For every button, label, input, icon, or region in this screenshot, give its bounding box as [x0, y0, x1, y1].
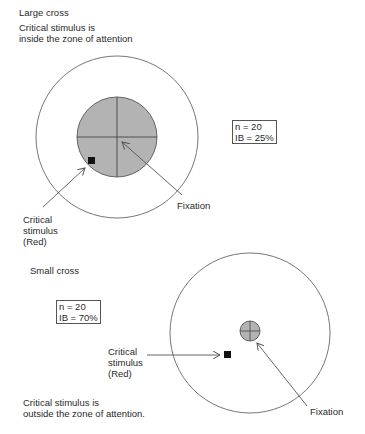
bottom-stimulus-label-line1: Critical — [108, 346, 143, 357]
bottom-stimulus-label-line2: stimulus — [108, 357, 143, 368]
top-fixation-label: Fixation — [177, 200, 210, 211]
top-caption-line1: Critical stimulus is — [19, 22, 95, 33]
bottom-stats-box: n = 20 IB = 70% — [56, 300, 101, 324]
top-stimulus-label-line1: Critical — [23, 214, 58, 225]
stimulus-arrow-top — [43, 168, 85, 207]
bottom-caption-line2: outside the zone of attention. — [23, 408, 145, 419]
critical-stimulus-square-bottom — [224, 351, 231, 358]
top-stats-ib: IB = 25% — [235, 132, 274, 143]
top-stats-n: n = 20 — [235, 121, 274, 132]
bottom-stimulus-label-line3: (Red) — [108, 368, 143, 379]
bottom-fixation-label: Fixation — [310, 406, 343, 417]
top-stats-box: n = 20 IB = 25% — [232, 120, 277, 144]
bottom-stats-n: n = 20 — [59, 301, 98, 312]
bottom-caption-line1: Critical stimulus is — [23, 397, 99, 408]
top-stimulus-label-line3: (Red) — [23, 236, 58, 247]
large-cross-figure — [36, 56, 198, 218]
critical-stimulus-square-top — [88, 157, 95, 164]
large-cross-heading: Large cross — [19, 7, 69, 18]
top-stimulus-label: Critical stimulus (Red) — [23, 214, 58, 247]
top-stimulus-label-line2: stimulus — [23, 225, 58, 236]
fixation-arrow-bottom — [257, 343, 307, 406]
bottom-stimulus-label: Critical stimulus (Red) — [108, 346, 143, 379]
top-caption-line2: inside the zone of attention — [19, 33, 133, 44]
small-cross-heading: Small cross — [30, 265, 79, 276]
small-cross-figure — [147, 253, 330, 413]
bottom-stats-ib: IB = 70% — [59, 312, 98, 323]
